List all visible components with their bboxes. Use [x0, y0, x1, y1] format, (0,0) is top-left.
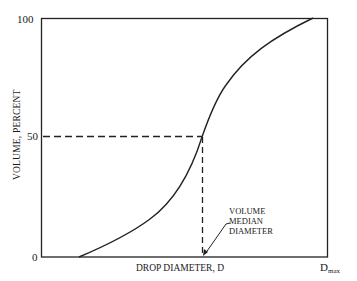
chart-canvas: [0, 0, 357, 281]
cumulative-curve: [79, 18, 313, 257]
y-tick-0: 0: [32, 252, 38, 263]
annotation-line-1: VOLUME: [229, 206, 273, 216]
annotation-volume-median-diameter: VOLUME MEDIAN DIAMETER: [229, 206, 273, 236]
x-axis-dmax-label: Dmax: [320, 261, 340, 275]
y-axis-label: VOLUME, PERCENT: [12, 89, 22, 180]
dmax-main: D: [320, 261, 328, 273]
plot-frame: [42, 19, 328, 258]
dmax-sub: max: [328, 267, 340, 275]
annotation-line-3: DIAMETER: [229, 226, 273, 236]
annotation-arrow-line: [205, 224, 226, 254]
y-tick-50: 50: [27, 131, 38, 142]
y-tick-100: 100: [17, 14, 34, 25]
annotation-line-2: MEDIAN: [229, 216, 273, 226]
x-axis-label: DROP DIAMETER, D: [136, 263, 224, 273]
